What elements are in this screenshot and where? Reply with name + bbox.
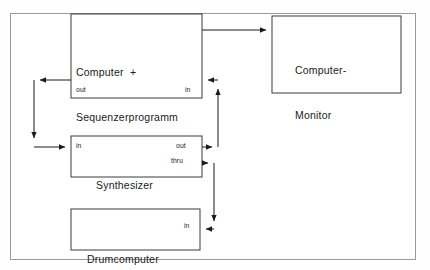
node-label-synthesizer-line1: Synthesizer (96, 178, 153, 193)
port-label-drumcomputer-in: in (184, 222, 190, 230)
port-label-synthesizer-in: in (76, 142, 82, 150)
node-label-drumcomputer: Drumcomputer (87, 222, 159, 270)
node-label-computer: Computer + Sequenzerprogramm (76, 35, 178, 155)
node-label-computer-line2: Sequenzerprogramm (76, 110, 178, 125)
port-label-synthesizer-out: out (176, 142, 186, 150)
node-label-computer-line1: Computer + (76, 65, 178, 80)
port-label-computer-in: in (185, 86, 191, 94)
diagram-connector-layer (0, 0, 430, 270)
port-label-computer-out: out (76, 86, 86, 94)
node-label-synthesizer: Synthesizer (96, 148, 153, 223)
node-label-monitor-line1: Computer- (295, 63, 346, 78)
node-label-monitor-line2: Monitor (295, 108, 346, 123)
node-label-drumcomputer-line1: Drumcomputer (87, 252, 159, 267)
node-label-monitor: Computer- Monitor (295, 33, 346, 153)
port-label-synthesizer-thru: thru (171, 157, 183, 165)
midi-block-diagram: Computer + Sequenzerprogramm Computer- M… (0, 0, 430, 270)
